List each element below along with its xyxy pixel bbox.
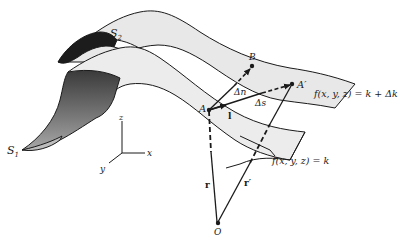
point-A-prime [290, 82, 294, 86]
point-A [207, 108, 211, 112]
label-s1: S1 [7, 144, 19, 159]
y-axis [109, 153, 122, 163]
label-point-O: O [214, 227, 222, 237]
label-point-A-prime: A′ [296, 79, 307, 90]
vector-r-solid [211, 152, 217, 222]
point-B [250, 64, 254, 68]
label-point-A: A [198, 103, 206, 114]
point-O [216, 221, 220, 225]
label-equation-s1: f(x, y, z) = k [271, 155, 329, 166]
label-delta-s: Δs [254, 98, 266, 108]
label-axis-y: y [99, 164, 106, 174]
label-axis-x: x [147, 148, 152, 158]
vector-r-prime-solid [218, 163, 250, 222]
label-delta-n: Δn [233, 87, 246, 97]
surface-s1-dark-side [22, 70, 120, 150]
label-equation-s2: f(x, y, z) = k + Δk [313, 88, 398, 99]
level-surfaces-diagram: S2 S1 z x y A B A′ O Δn Δs l r r′ f(x, y… [0, 0, 406, 245]
label-unit-l: l [228, 111, 232, 121]
label-axis-z: z [118, 113, 124, 122]
label-r: r [205, 180, 210, 190]
coordinate-axes [109, 121, 145, 163]
label-point-B: B [248, 52, 256, 62]
label-r-prime: r′ [244, 178, 252, 188]
